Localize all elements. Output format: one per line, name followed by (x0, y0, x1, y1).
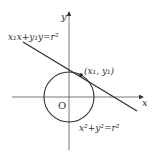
circle-equation: x²+y²=r² (79, 123, 120, 133)
tangent-line (23, 42, 137, 111)
x-axis-label: x (142, 97, 148, 108)
diagram-canvas: y x O x₁x+y₁y=r² (x₁, y₁) x²+y²=r² (0, 0, 153, 155)
tangent-point-label: (x₁, y₁) (84, 66, 115, 76)
tangent-line-equation: x₁x+y₁y=r² (8, 32, 59, 42)
y-axis-label: y (60, 11, 67, 22)
tangent-point (79, 73, 83, 77)
origin-label: O (58, 100, 66, 111)
tangent-diagram: y x O x₁x+y₁y=r² (x₁, y₁) x²+y²=r² (0, 0, 153, 155)
